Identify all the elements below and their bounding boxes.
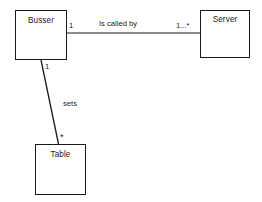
multiplicity-server-side-server-association: 1...* (176, 21, 190, 30)
uml-class-diagram: Busser Server Table Is called by sets 1 … (0, 0, 262, 202)
class-name-busser: Busser (16, 16, 66, 25)
multiplicity-table-side-table-association: * (60, 133, 64, 142)
multiplicity-busser-side-server-association: 1 (69, 21, 73, 30)
multiplicity-busser-side-table-association: 1 (45, 62, 49, 71)
class-box-table[interactable]: Table (35, 144, 86, 195)
association-label-sets: sets (63, 99, 77, 108)
association-line-busser-table (41, 60, 59, 144)
class-box-server[interactable]: Server (200, 10, 250, 58)
class-name-server: Server (201, 15, 249, 24)
association-label-is-called-by: Is called by (99, 19, 137, 28)
class-box-busser[interactable]: Busser (15, 10, 67, 60)
class-name-table: Table (36, 150, 85, 159)
